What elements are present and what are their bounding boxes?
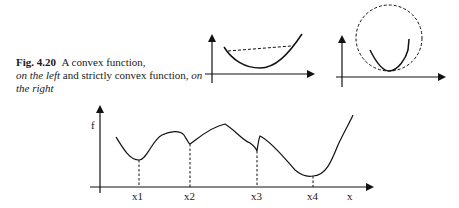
chord-dashed-line xyxy=(228,46,291,51)
y-axis-label: f xyxy=(91,119,95,131)
figure-graphics: f x1 x2 x3 x4 x xyxy=(0,0,459,208)
x-axis-label: x xyxy=(347,190,353,202)
strictly-convex-curve xyxy=(370,39,409,71)
x4-label: x4 xyxy=(307,190,319,202)
strictly-convex-function-plot xyxy=(336,5,444,87)
x2-label: x2 xyxy=(184,190,195,202)
function-curve xyxy=(116,115,353,176)
x1-label: x1 xyxy=(132,190,143,202)
convex-function-plot xyxy=(205,34,313,83)
x3-label: x3 xyxy=(251,190,263,202)
convex-curve xyxy=(224,34,302,68)
dashed-circle xyxy=(356,5,422,71)
local-minima-plot: f x1 x2 x3 x4 x xyxy=(90,107,372,202)
